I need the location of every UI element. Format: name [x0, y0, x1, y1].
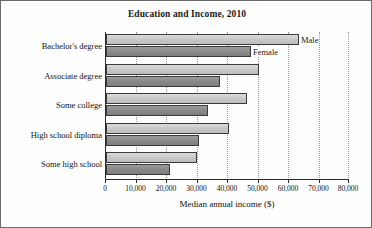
xtick-label-80000: 80,000: [338, 184, 359, 193]
xtick-label-0: 0: [103, 184, 107, 193]
chart-title: Education and Income, 2010: [1, 9, 372, 19]
bar-male-bachelors: [106, 34, 299, 45]
plot-area: Male Female 0 10,000 20,000 30,000 40,00…: [105, 32, 349, 180]
xtick-mark-80000: [348, 180, 349, 183]
series-label-female: Female: [252, 47, 279, 57]
gridline-70000: [319, 32, 320, 180]
xtick-label-10000: 10,000: [125, 184, 146, 193]
xtick-label-50000: 50,000: [247, 184, 268, 193]
bar-male-high-school-diploma: [106, 123, 229, 134]
y-axis-line: [105, 32, 106, 180]
xtick-mark-40000: [227, 180, 228, 183]
y-axis-label-some-college: Some college: [2, 100, 102, 110]
bar-female-bachelors: [106, 46, 251, 57]
xtick-mark-30000: [197, 180, 198, 183]
xtick-mark-10000: [136, 180, 137, 183]
bar-female-associate: [106, 76, 220, 87]
y-axis-label-high-school-diploma: High school diploma: [2, 130, 102, 140]
y-axis-label-some-high-school: Some high school: [2, 159, 102, 169]
xtick-mark-20000: [166, 180, 167, 183]
y-axis-category-labels: Bachelor's degree Associate degree Some …: [1, 32, 102, 180]
series-label-male: Male: [300, 35, 319, 45]
xtick-mark-60000: [288, 180, 289, 183]
xtick-label-70000: 70,000: [308, 184, 329, 193]
xtick-label-40000: 40,000: [217, 184, 238, 193]
y-axis-label-bachelors: Bachelor's degree: [2, 41, 102, 51]
bar-male-some-high-school: [106, 152, 197, 163]
bar-female-some-high-school: [106, 164, 170, 175]
xtick-mark-0: [105, 180, 106, 183]
xtick-mark-50000: [258, 180, 259, 183]
chart-figure: Education and Income, 2010 Bachelor's de…: [0, 0, 372, 228]
x-axis-title: Median annual income ($): [105, 199, 349, 209]
gridline-60000: [288, 32, 289, 180]
xtick-label-60000: 60,000: [278, 184, 299, 193]
bar-female-some-college: [106, 105, 208, 116]
xtick-label-20000: 20,000: [156, 184, 177, 193]
bar-male-some-college: [106, 93, 247, 104]
bar-female-high-school-diploma: [106, 135, 199, 146]
xtick-mark-70000: [319, 180, 320, 183]
bar-male-associate: [106, 64, 259, 75]
y-axis-label-associate: Associate degree: [2, 71, 102, 81]
gridline-80000: [348, 32, 349, 180]
xtick-label-30000: 30,000: [186, 184, 207, 193]
